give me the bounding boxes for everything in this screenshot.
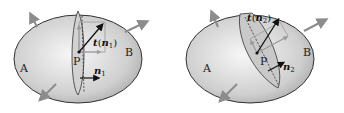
point-p-marker [77,50,80,53]
traction-diagram: A B P t(n1) n1 A B P t(n2) n2 [0,0,344,113]
region-a-label: A [19,62,29,75]
region-b-label: B [303,46,311,59]
point-p-marker [255,51,258,54]
region-b-label: B [125,46,133,59]
load-arrow [31,15,37,27]
region-a-label: A [202,62,212,75]
panel-1: A B P t(n1) n1 [14,11,146,103]
load-arrow [125,22,146,32]
load-arrow [304,20,325,31]
panel-2: A B P t(n2) n2 [186,12,325,103]
point-p-label: P [260,55,268,68]
point-p-label: P [73,55,81,68]
